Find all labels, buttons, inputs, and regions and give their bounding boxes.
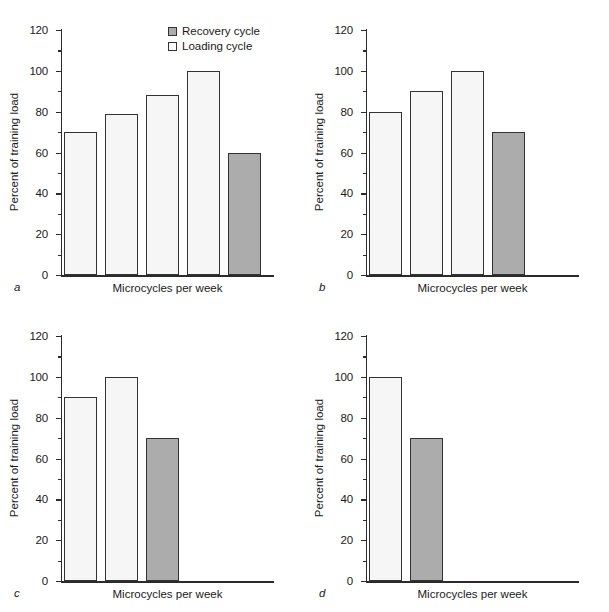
y-tick-label-80: 80 (341, 106, 353, 118)
x-axis-title-b: Microcycles per week (366, 282, 579, 294)
chart-panel-c: Percent of training load 020406080100120… (0, 306, 304, 612)
y-tick-minor-50 (58, 173, 62, 174)
y-tick-40: 40 (361, 499, 367, 500)
bar-a-4-loading (187, 71, 220, 275)
y-tick-label-0: 0 (347, 269, 353, 281)
y-tick-80: 80 (361, 418, 367, 419)
y-tick-minor-10 (363, 561, 367, 562)
y-tick-label-80: 80 (341, 412, 353, 424)
y-tick-label-40: 40 (341, 187, 353, 199)
x-axis-line-d (366, 581, 579, 583)
y-tick-40: 40 (56, 499, 62, 500)
y-tick-minor-30 (363, 214, 367, 215)
y-tick-label-80: 80 (36, 106, 48, 118)
legend-label-recovery: Recovery cycle (182, 24, 260, 39)
legend-swatch-loading-icon (168, 42, 177, 51)
y-tick-label-80: 80 (36, 412, 48, 424)
y-tick-minor-110 (363, 356, 367, 357)
y-tick-minor-30 (363, 520, 367, 521)
chart-panel-b: Percent of training load 020406080100120… (305, 0, 609, 306)
x-axis-title-d: Microcycles per week (366, 588, 579, 600)
y-tick-minor-90 (58, 91, 62, 92)
y-tick-label-60: 60 (341, 453, 353, 465)
x-axis-line-b (366, 275, 579, 277)
y-tick-label-100: 100 (334, 371, 353, 383)
figure-panels: Percent of training load 020406080100120… (0, 0, 609, 612)
y-tick-0: 0 (56, 581, 62, 582)
bar-b-1-loading (369, 112, 402, 275)
y-tick-label-0: 0 (42, 575, 48, 587)
legend-label-loading: Loading cycle (182, 39, 252, 54)
y-tick-120: 120 (56, 336, 62, 337)
y-tick-60: 60 (56, 459, 62, 460)
x-axis-title-c: Microcycles per week (61, 588, 274, 600)
y-tick-minor-90 (363, 397, 367, 398)
y-tick-minor-30 (58, 214, 62, 215)
y-axis-title-d: Percent of training load (313, 399, 325, 517)
plot-area-d: 020406080100120 (367, 336, 579, 581)
y-tick-minor-110 (363, 50, 367, 51)
y-tick-100: 100 (361, 377, 367, 378)
y-tick-minor-30 (58, 520, 62, 521)
bar-b-3-loading (451, 71, 484, 275)
y-tick-40: 40 (56, 193, 62, 194)
bar-a-2-loading (105, 114, 138, 275)
bar-c-3-recovery (146, 438, 179, 581)
y-tick-label-0: 0 (347, 575, 353, 587)
y-tick-label-100: 100 (334, 65, 353, 77)
plot-area-a: 020406080100120 (62, 30, 274, 275)
y-tick-label-20: 20 (36, 228, 48, 240)
bar-a-5-recovery (228, 153, 261, 276)
y-tick-120: 120 (56, 30, 62, 31)
y-tick-label-120: 120 (334, 330, 353, 342)
y-tick-minor-10 (58, 561, 62, 562)
y-tick-label-60: 60 (36, 147, 48, 159)
plot-area-b: 020406080100120 (367, 30, 579, 275)
y-tick-40: 40 (361, 193, 367, 194)
legend-item-loading: Loading cycle (168, 39, 260, 54)
panel-letter-a: a (14, 281, 20, 293)
y-tick-minor-70 (58, 438, 62, 439)
y-tick-label-20: 20 (341, 534, 353, 546)
panel-letter-b: b (319, 281, 325, 293)
y-tick-label-100: 100 (29, 65, 48, 77)
y-axis-title-a: Percent of training load (8, 93, 20, 211)
y-tick-20: 20 (361, 540, 367, 541)
x-axis-line-c (61, 581, 274, 583)
y-axis-title-b: Percent of training load (313, 93, 325, 211)
bar-b-2-loading (410, 91, 443, 275)
y-tick-label-120: 120 (29, 24, 48, 36)
y-tick-20: 20 (56, 540, 62, 541)
y-tick-minor-90 (58, 397, 62, 398)
y-tick-60: 60 (361, 153, 367, 154)
y-tick-100: 100 (56, 377, 62, 378)
y-tick-minor-90 (363, 91, 367, 92)
y-axis-title-c: Percent of training load (8, 399, 20, 517)
y-tick-minor-10 (363, 255, 367, 256)
plot-area-c: 020406080100120 (62, 336, 274, 581)
x-axis-title-a: Microcycles per week (61, 282, 274, 294)
y-tick-100: 100 (56, 71, 62, 72)
y-tick-label-60: 60 (341, 147, 353, 159)
y-tick-label-40: 40 (341, 493, 353, 505)
y-tick-minor-70 (363, 132, 367, 133)
y-tick-label-20: 20 (36, 534, 48, 546)
bar-c-1-loading (64, 397, 97, 581)
chart-panel-a: Percent of training load 020406080100120… (0, 0, 304, 306)
y-tick-label-120: 120 (334, 24, 353, 36)
y-tick-minor-50 (58, 479, 62, 480)
y-tick-60: 60 (361, 459, 367, 460)
y-tick-80: 80 (56, 418, 62, 419)
y-tick-minor-10 (58, 255, 62, 256)
y-tick-minor-110 (58, 356, 62, 357)
bar-b-4-recovery (492, 132, 525, 275)
bar-c-2-loading (105, 377, 138, 581)
y-tick-20: 20 (361, 234, 367, 235)
y-tick-120: 120 (361, 336, 367, 337)
y-tick-minor-70 (363, 438, 367, 439)
y-tick-label-20: 20 (341, 228, 353, 240)
legend-a: Recovery cycle Loading cycle (168, 24, 260, 54)
bar-a-3-loading (146, 95, 179, 275)
y-tick-label-100: 100 (29, 371, 48, 383)
panel-letter-c: c (14, 587, 20, 599)
